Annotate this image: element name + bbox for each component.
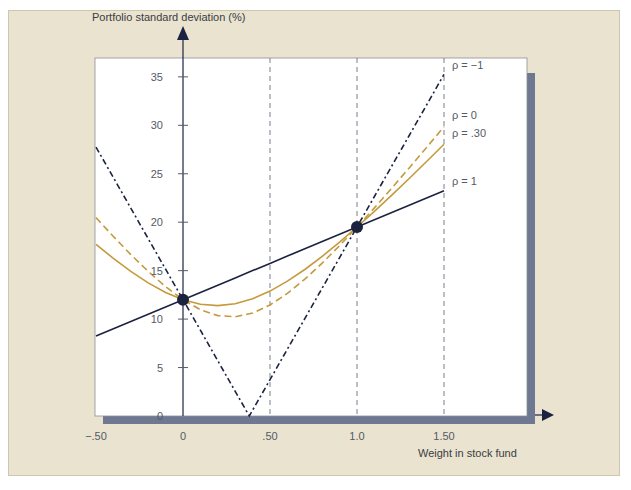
x-axis-arrow-icon bbox=[542, 409, 554, 421]
y-tick-label: 25 bbox=[151, 168, 163, 180]
rho-label: ρ = 1 bbox=[452, 175, 477, 187]
data-point-marker bbox=[177, 294, 189, 306]
x-ticks: −.500.501.01.50 bbox=[85, 430, 455, 442]
x-tick-label: 0 bbox=[180, 430, 186, 442]
y-tick-label: 10 bbox=[151, 313, 163, 325]
y-axis-arrow-icon bbox=[177, 26, 189, 40]
rho-label: ρ = −1 bbox=[452, 59, 483, 71]
rho-label: ρ = 0 bbox=[452, 109, 477, 121]
data-point-marker bbox=[351, 221, 363, 233]
y-tick-label: 5 bbox=[157, 362, 163, 374]
portfolio-sd-chart: 05101520253035 −.500.501.01.50 ρ = −1ρ =… bbox=[0, 0, 631, 490]
x-tick-label: .50 bbox=[262, 430, 277, 442]
y-tick-label: 0 bbox=[157, 410, 163, 422]
x-tick-label: 1.50 bbox=[433, 430, 454, 442]
x-tick-label: 1.0 bbox=[349, 430, 364, 442]
rho-label: ρ = .30 bbox=[452, 127, 486, 139]
y-tick-label: 20 bbox=[151, 216, 163, 228]
y-tick-label: 30 bbox=[151, 119, 163, 131]
x-tick-label: −.50 bbox=[85, 430, 107, 442]
y-axis-title: Portfolio standard deviation (%) bbox=[92, 11, 245, 23]
y-tick-label: 35 bbox=[151, 71, 163, 83]
x-axis-title: Weight in stock fund bbox=[418, 447, 517, 459]
y-tick-label: 15 bbox=[151, 265, 163, 277]
